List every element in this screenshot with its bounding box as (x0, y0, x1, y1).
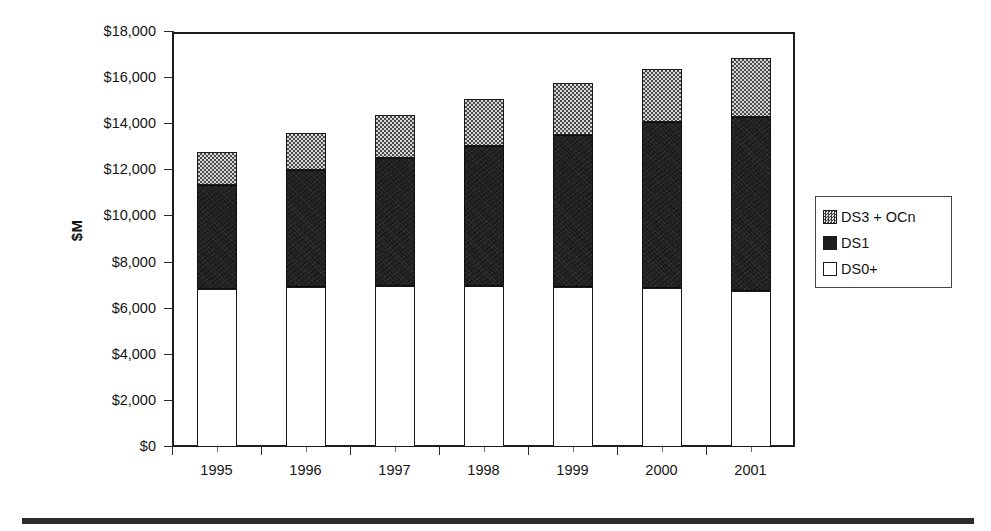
x-axis-tick (528, 447, 529, 455)
legend-swatch-ds1-icon (823, 236, 837, 250)
y-axis-tick-label: $6,000 (36, 300, 156, 316)
y-axis-tick-label: $10,000 (36, 207, 156, 223)
bar-2000 (642, 32, 682, 447)
bar-segment-ds3-ocn (286, 133, 326, 170)
x-axis-minor-tick (395, 447, 396, 452)
y-axis-tick-label: $8,000 (36, 254, 156, 270)
x-axis-tick-label: 1996 (261, 462, 351, 478)
bar-1995 (197, 32, 237, 447)
bar-segment-ds0 (464, 286, 504, 447)
x-axis-tick (350, 447, 351, 455)
bar-1996 (286, 32, 326, 447)
x-axis-minor-tick (484, 447, 485, 452)
x-axis-tick-label: 2000 (617, 462, 707, 478)
bar-segment-ds0 (197, 289, 237, 447)
x-axis-tick (261, 447, 262, 455)
x-axis-tick (172, 447, 173, 455)
legend-label-ds3-ocn: DS3 + OCn (841, 210, 916, 225)
stacked-bar-chart: $M $18,000$16,000$14,000$12,000$10,000$8… (0, 0, 991, 531)
chart-legend: DS3 + OCn DS1 DS0+ (815, 196, 952, 288)
bar-1998 (464, 32, 504, 447)
x-axis-minor-tick (573, 447, 574, 452)
x-axis-tick-label: 1997 (350, 462, 440, 478)
y-axis-tick-label: $2,000 (36, 392, 156, 408)
y-axis-tick-label: $18,000 (36, 23, 156, 39)
legend-item: DS3 + OCn (823, 204, 951, 230)
x-axis-tick-label: 1999 (528, 462, 618, 478)
legend-label-ds1: DS1 (841, 236, 869, 251)
bar-segment-ds1 (642, 122, 682, 288)
bar-segment-ds0 (731, 291, 771, 447)
bar-segment-ds0 (553, 287, 593, 447)
bar-segment-ds1 (553, 135, 593, 287)
x-axis-minor-tick (217, 447, 218, 452)
x-axis-tick (706, 447, 707, 455)
y-axis-tick-label: $14,000 (36, 115, 156, 131)
x-axis-tick (617, 447, 618, 455)
x-axis-tick-label: 1998 (439, 462, 529, 478)
bar-segment-ds3-ocn (464, 99, 504, 146)
bar-segment-ds0 (375, 286, 415, 447)
page-divider-rule (22, 518, 974, 524)
bar-segment-ds1 (464, 146, 504, 285)
legend-label-ds0: DS0+ (841, 262, 878, 277)
bar-segment-ds1 (286, 170, 326, 286)
x-axis-minor-tick (306, 447, 307, 452)
bar-1999 (553, 32, 593, 447)
y-axis-tick-label: $4,000 (36, 346, 156, 362)
bar-segment-ds1 (731, 117, 771, 291)
bar-segment-ds3-ocn (375, 115, 415, 158)
bar-segment-ds0 (642, 288, 682, 447)
bar-segment-ds3-ocn (642, 69, 682, 122)
x-axis-tick-label: 2001 (706, 462, 796, 478)
y-axis-tick-label: $16,000 (36, 69, 156, 85)
y-axis-tick-label: $0 (36, 438, 156, 454)
bar-2001 (731, 32, 771, 447)
legend-swatch-ds3-ocn-icon (823, 210, 837, 224)
legend-item: DS0+ (823, 256, 951, 282)
x-axis-tick (439, 447, 440, 455)
y-axis-tick-label: $12,000 (36, 161, 156, 177)
bar-segment-ds1 (375, 158, 415, 286)
legend-item: DS1 (823, 230, 951, 256)
bar-segment-ds3-ocn (553, 83, 593, 135)
x-axis-tick-label: 1995 (172, 462, 262, 478)
bar-1997 (375, 32, 415, 447)
x-axis-minor-tick (662, 447, 663, 452)
bar-segment-ds3-ocn (731, 58, 771, 117)
bar-segment-ds1 (197, 185, 237, 289)
bar-segment-ds0 (286, 287, 326, 447)
x-axis-minor-tick (751, 447, 752, 452)
bar-segment-ds3-ocn (197, 152, 237, 185)
legend-swatch-ds0-icon (823, 262, 837, 276)
